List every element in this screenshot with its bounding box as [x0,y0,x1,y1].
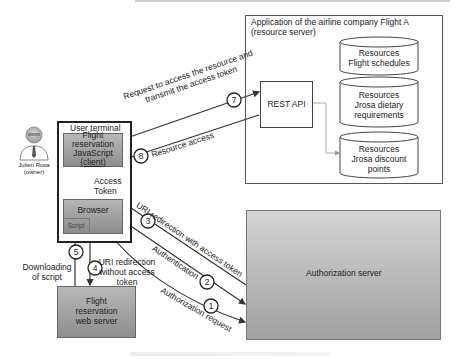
web-server-label: Flight reservation web server [57,296,136,326]
resource-flight-schedules-label: Resources Flight schedules [340,48,418,68]
figure-caption-stub [130,352,330,356]
resource-dietary-label: Resources Jrosa dietary requirements [340,90,418,120]
step-number-2: 2 [202,277,212,287]
step-number-7: 7 [229,95,239,105]
user-avatar-icon [20,127,48,160]
rest-api-label: REST API [260,99,313,109]
step-5-label: Downloading of script [18,262,76,282]
step-6-label: Access Token [94,176,121,196]
actor-name: Julien Rosa [10,162,58,169]
rest-to-discount-connector [311,103,339,153]
step-number-5: 5 [71,247,81,257]
step-4-label: URI redirection without access token [98,257,156,287]
browser-label: Browser [63,205,123,215]
step-number-8: 8 [136,151,146,161]
resource-discount-label: Resources Jrosa discount points [340,144,418,174]
actor-role: (owner) [10,169,58,176]
script-label: Script [63,221,89,231]
client-javascript-label: Flight reservation JavaScript (client) [63,131,123,167]
